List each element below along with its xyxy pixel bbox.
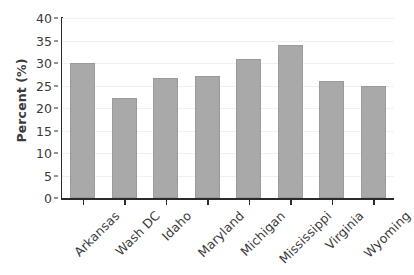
x-axis-tick-label: Wyoming xyxy=(361,208,414,261)
y-axis-tick-mark xyxy=(54,153,58,154)
bar-michigan[interactable] xyxy=(236,59,261,199)
x-axis-label-slot: Arkansas xyxy=(62,206,104,275)
bar-slot xyxy=(62,18,104,198)
x-axis-tick-mark xyxy=(124,200,125,205)
y-axis-tick-mark xyxy=(54,198,58,199)
bar-idaho[interactable] xyxy=(153,78,178,198)
y-axis-tick-label: 20 xyxy=(36,101,52,116)
x-axis-label-slot: Idaho xyxy=(145,206,187,275)
bar-slot xyxy=(353,18,395,198)
y-axis-title-text: Percent (%) xyxy=(15,58,30,142)
x-axis-tick-mark xyxy=(207,200,208,205)
bar-arkansas[interactable] xyxy=(70,63,95,198)
y-axis-tick-mark xyxy=(54,175,58,176)
x-axis-label-slot: Mississippi xyxy=(270,206,312,275)
y-axis-tick-label: 25 xyxy=(36,78,52,93)
y-axis-tick-mark xyxy=(54,63,58,64)
y-axis-tick-mark xyxy=(54,108,58,109)
bar-slot xyxy=(145,18,187,198)
x-axis-label-slot: Virginia xyxy=(311,206,353,275)
bar-wash-dc[interactable] xyxy=(112,98,137,198)
x-axis-tick-mark xyxy=(166,200,167,205)
bar-slot xyxy=(228,18,270,198)
y-axis-tick-mark xyxy=(54,85,58,86)
x-axis-label-slot: Maryland xyxy=(187,206,229,275)
x-axis-tick-mark xyxy=(373,200,374,205)
x-axis-tick-mark xyxy=(83,200,84,205)
x-axis-tick-mark xyxy=(249,200,250,205)
x-axis-label-slot: Wash DC xyxy=(104,206,146,275)
bar-maryland[interactable] xyxy=(195,76,220,198)
bar-slot xyxy=(104,18,146,198)
plot-area xyxy=(62,18,394,198)
x-axis-tick-mark xyxy=(332,200,333,205)
x-axis-tick-mark xyxy=(290,200,291,205)
y-axis-tick-label: 30 xyxy=(36,56,52,71)
x-axis-label-slot: Michigan xyxy=(228,206,270,275)
x-axis-label-slot: Wyoming xyxy=(353,206,395,275)
x-axis-tick-labels: ArkansasWash DCIdahoMarylandMichiganMiss… xyxy=(62,206,394,275)
y-axis-tick-labels: 0510152025303540 xyxy=(30,18,58,198)
y-axis-tick-label: 5 xyxy=(44,168,52,183)
bar-wyoming[interactable] xyxy=(361,86,386,199)
bar-slot xyxy=(187,18,229,198)
bar-slot xyxy=(311,18,353,198)
y-axis-tick-mark xyxy=(54,40,58,41)
y-axis-tick-label: 10 xyxy=(36,146,52,161)
bar-series xyxy=(62,18,394,198)
y-axis-tick-label: 35 xyxy=(36,33,52,48)
bar-mississippi[interactable] xyxy=(278,45,303,198)
bar-virginia[interactable] xyxy=(319,81,344,198)
bar-slot xyxy=(270,18,312,198)
y-axis-tick-label: 40 xyxy=(36,11,52,26)
y-axis-tick-mark xyxy=(54,18,58,19)
y-axis-tick-label: 0 xyxy=(44,191,52,206)
y-axis-tick-mark xyxy=(54,130,58,131)
y-axis-tick-label: 15 xyxy=(36,123,52,138)
